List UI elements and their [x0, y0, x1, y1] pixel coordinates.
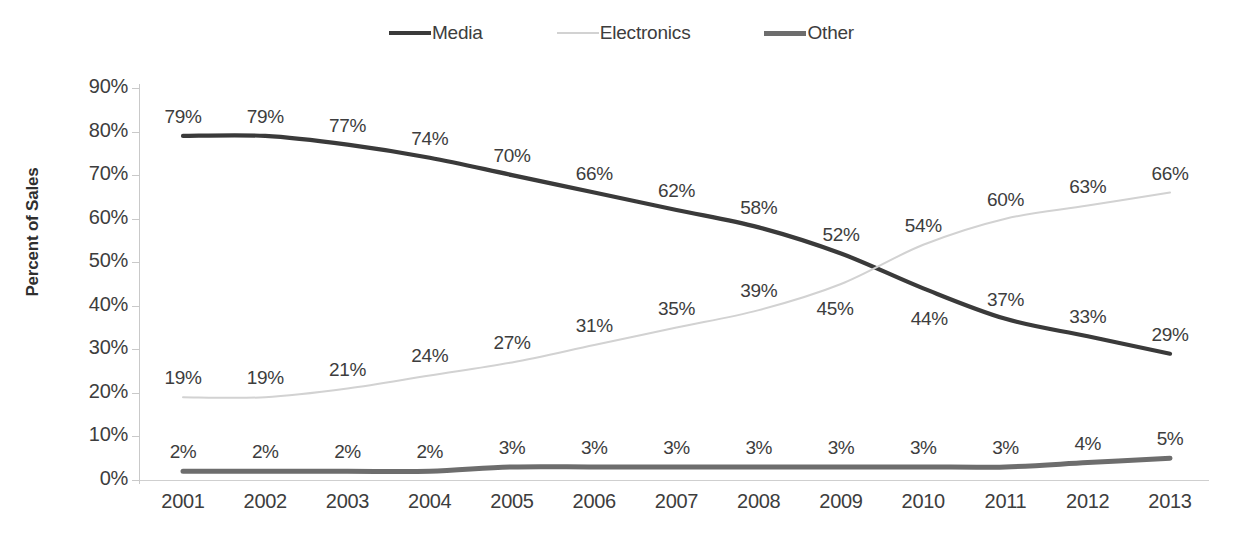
data-label-other-2003: 2%	[311, 441, 385, 463]
y-axis-tick-mark	[132, 88, 140, 89]
data-label-other-2009: 3%	[804, 437, 878, 459]
data-label-other-2011: 3%	[969, 437, 1043, 459]
data-label-media-2003: 77%	[311, 115, 385, 137]
data-label-electronics-2002: 19%	[228, 367, 302, 389]
y-axis-tick-mark	[132, 349, 140, 350]
data-label-media-2006: 66%	[557, 163, 631, 185]
data-label-other-2013: 5%	[1133, 428, 1207, 450]
data-label-other-2007: 3%	[640, 437, 714, 459]
data-label-electronics-2001: 19%	[146, 367, 220, 389]
data-label-other-2005: 3%	[475, 437, 549, 459]
data-label-media-2013: 29%	[1133, 324, 1207, 346]
data-label-electronics-2005: 27%	[475, 332, 549, 354]
data-label-other-2001: 2%	[146, 441, 220, 463]
data-label-electronics-2009: 45%	[798, 298, 872, 320]
data-label-electronics-2013: 66%	[1133, 163, 1207, 185]
data-label-media-2011: 37%	[969, 289, 1043, 311]
y-axis-tick-mark	[132, 436, 140, 437]
data-label-electronics-2007: 35%	[640, 298, 714, 320]
data-label-other-2002: 2%	[228, 441, 302, 463]
series-line-media	[183, 135, 1170, 353]
y-axis-tick-mark	[132, 219, 140, 220]
data-label-electronics-2004: 24%	[393, 345, 467, 367]
data-label-media-2009: 52%	[804, 224, 878, 246]
data-label-media-2004: 74%	[393, 128, 467, 150]
y-axis-tick-mark	[132, 175, 140, 176]
data-label-electronics-2010: 54%	[886, 215, 960, 237]
data-label-media-2005: 70%	[475, 145, 549, 167]
data-label-media-2012: 33%	[1051, 306, 1125, 328]
data-label-other-2004: 2%	[393, 441, 467, 463]
data-label-media-2010: 44%	[892, 308, 966, 330]
data-label-electronics-2006: 31%	[557, 315, 631, 337]
data-label-electronics-2012: 63%	[1051, 176, 1125, 198]
data-label-media-2008: 58%	[722, 197, 796, 219]
data-label-electronics-2003: 21%	[311, 359, 385, 381]
y-axis-tick-mark	[132, 480, 140, 481]
y-axis-tick-mark	[132, 132, 140, 133]
y-axis-tick-mark	[132, 306, 140, 307]
data-label-other-2006: 3%	[557, 437, 631, 459]
data-label-electronics-2011: 60%	[969, 189, 1043, 211]
y-axis-tick-mark	[132, 393, 140, 394]
y-axis-tick-mark	[132, 262, 140, 263]
data-label-electronics-2008: 39%	[722, 280, 796, 302]
data-label-media-2007: 62%	[640, 180, 714, 202]
data-label-other-2012: 4%	[1051, 433, 1125, 455]
data-label-other-2008: 3%	[722, 437, 796, 459]
data-label-other-2010: 3%	[886, 437, 960, 459]
data-label-media-2002: 79%	[228, 106, 302, 128]
data-label-media-2001: 79%	[146, 106, 220, 128]
